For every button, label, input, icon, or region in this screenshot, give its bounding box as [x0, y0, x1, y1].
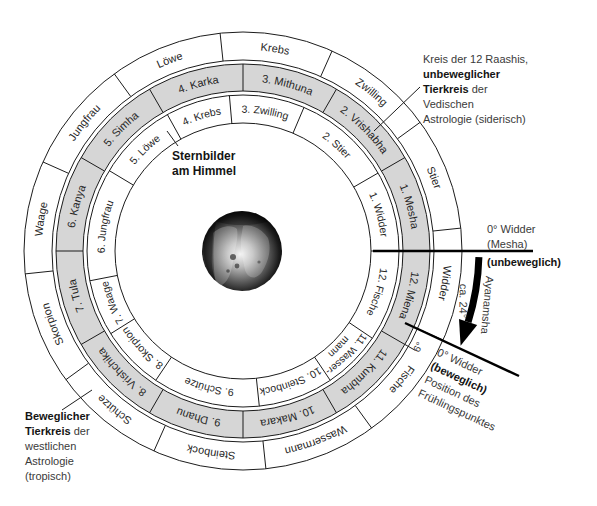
annotation-bold-text: unbeweglicher [423, 68, 500, 80]
fixed-zero-point-annotation: 0° Widder (Mesha) [487, 222, 535, 252]
annotation-text: der [71, 425, 90, 437]
annotation-text: 0° Widder [487, 223, 535, 235]
ayanamsha-value: ca. 24° [455, 284, 471, 319]
annotation-text: (tropisch) [25, 470, 71, 482]
annotation-bold-text: am Himmel [172, 164, 236, 178]
fixed-zero-point-status: (unbeweglich) [487, 255, 561, 270]
arrow-head-icon [459, 319, 477, 346]
annotation-text: Kreis der 12 Raashis, [423, 53, 528, 65]
annotation-line: Vedischen [423, 97, 528, 112]
annotation-line: 0° Widder [487, 222, 535, 237]
constellations-annotation: Sternbilder am Himmel [172, 149, 236, 179]
annotation-line: (tropisch) [25, 469, 90, 484]
annotation-line: Astrologie [25, 454, 90, 469]
annotation-line: am Himmel [172, 164, 236, 179]
annotation-line: Tierkreis der [423, 82, 528, 97]
annotation-text: (Mesha) [487, 238, 527, 250]
annotation-line: Astrologie (siderisch) [423, 112, 528, 127]
annotation-bold-text: Tierkreis [423, 83, 469, 95]
tropical-zodiac-annotation: Beweglicher Tierkreis der westlichen Ast… [25, 409, 90, 484]
annotation-bold-text: Tierkreis [25, 425, 71, 437]
annotation-bold-text: (unbeweglich) [487, 256, 561, 268]
annotation-line: Tierkreis der [25, 424, 90, 439]
raashi-circle-annotation: Kreis der 12 Raashis, unbeweglicher Tier… [423, 52, 528, 127]
annotation-text: Vedischen [423, 98, 474, 110]
annotation-line: Sternbilder [172, 149, 236, 164]
annotation-text: Astrologie (siderisch) [423, 113, 526, 125]
annotation-line: westlichen [25, 439, 90, 454]
annotation-line: Beweglicher [25, 409, 90, 424]
annotation-text: westlichen [25, 440, 76, 452]
annotation-text: der [469, 83, 488, 95]
annotation-bold-text: Beweglicher [25, 410, 90, 422]
annotation-line: (Mesha) [487, 237, 535, 252]
annotation-text: Astrologie [25, 455, 74, 467]
annotation-bold-text: Sternbilder [172, 149, 235, 163]
annotation-line: unbeweglicher [423, 67, 528, 82]
annotation-line: Kreis der 12 Raashis, [423, 52, 528, 67]
